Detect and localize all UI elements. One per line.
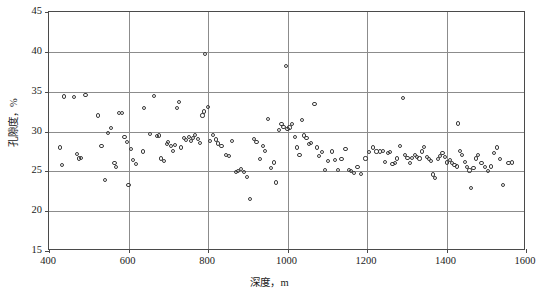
data-point (395, 156, 399, 160)
data-point (510, 160, 514, 164)
data-point (323, 168, 327, 172)
data-point (463, 160, 467, 164)
grid-line-horizontal (49, 52, 524, 53)
data-point (422, 145, 426, 149)
grid-line-vertical (447, 12, 448, 249)
data-point (355, 165, 359, 169)
data-point (173, 143, 177, 147)
data-point (300, 118, 304, 122)
x-axis-tick (129, 249, 130, 253)
x-axis-tick (288, 249, 289, 253)
data-point (177, 100, 181, 104)
data-point (72, 95, 76, 99)
data-point (248, 197, 252, 201)
data-point (157, 133, 161, 137)
data-point (109, 126, 113, 130)
data-point (266, 117, 270, 121)
data-point (326, 159, 330, 163)
grid-line-vertical (129, 12, 130, 249)
data-point (219, 144, 223, 148)
data-point (245, 175, 249, 179)
grid-line-horizontal (49, 92, 524, 93)
data-point (230, 139, 234, 143)
data-point (498, 157, 502, 161)
data-point (297, 153, 301, 157)
data-point (317, 154, 321, 158)
data-point (208, 139, 212, 143)
x-axis-tick-label: 600 (104, 255, 152, 267)
data-point (62, 94, 66, 98)
scatter-chart: 深度，m 孔隙度，% 40060080010001200140016001520… (0, 0, 539, 293)
data-point (388, 150, 392, 154)
y-axis-tick (45, 12, 49, 13)
data-point (458, 149, 462, 153)
data-point (381, 149, 385, 153)
data-point (126, 183, 130, 187)
data-point (106, 131, 110, 135)
data-point (474, 156, 478, 160)
data-point (122, 135, 126, 139)
data-point (60, 163, 64, 167)
data-point (469, 186, 473, 190)
y-axis-tick (45, 92, 49, 93)
data-point (125, 140, 129, 144)
data-point (420, 149, 424, 153)
data-point (492, 151, 496, 155)
data-point (242, 170, 246, 174)
data-point (175, 106, 179, 110)
data-point (293, 135, 297, 139)
data-point (363, 156, 367, 160)
data-point (254, 140, 258, 144)
data-point (471, 166, 475, 170)
x-axis-tick-label: 800 (183, 255, 231, 267)
data-point (202, 109, 206, 113)
data-point (476, 153, 480, 157)
data-point (141, 149, 145, 153)
data-point (455, 164, 459, 168)
x-axis-tick-label: 1200 (342, 255, 390, 267)
data-point (383, 160, 387, 164)
data-point (58, 145, 62, 149)
y-axis-tick-label: 25 (8, 164, 42, 176)
grid-line-vertical (208, 12, 209, 249)
data-point (274, 180, 278, 184)
data-point (290, 122, 294, 126)
data-point (312, 102, 316, 106)
data-point (269, 166, 273, 170)
y-axis-tick-label: 15 (8, 244, 42, 256)
data-point (287, 125, 291, 129)
data-point (103, 178, 107, 182)
data-point (171, 149, 175, 153)
data-point (330, 149, 334, 153)
data-point (203, 52, 207, 56)
data-point (227, 154, 231, 158)
x-axis-tick-label: 1400 (422, 255, 470, 267)
data-point (211, 133, 215, 137)
y-axis-tick-label: 40 (8, 45, 42, 57)
data-point (489, 164, 493, 168)
x-axis-tick (208, 249, 209, 253)
data-point (120, 111, 124, 115)
x-axis-tick (49, 249, 50, 253)
x-axis-tick-label: 1600 (501, 255, 539, 267)
y-axis-tick (45, 52, 49, 53)
x-axis-tick (367, 249, 368, 253)
x-axis-tick (447, 249, 448, 253)
y-axis-tick-label: 35 (8, 85, 42, 97)
data-point (198, 141, 202, 145)
data-point (261, 144, 265, 148)
data-point (315, 145, 319, 149)
x-axis-tick-label: 1000 (263, 255, 311, 267)
data-point (83, 93, 87, 97)
data-point (75, 152, 79, 156)
data-point (495, 145, 499, 149)
data-point (79, 156, 83, 160)
data-point (206, 105, 210, 109)
data-point (393, 161, 397, 165)
data-point (398, 144, 402, 148)
y-axis-tick-label: 45 (8, 5, 42, 17)
data-point (179, 145, 183, 149)
x-axis-tick (526, 249, 527, 253)
data-point (304, 136, 308, 140)
data-point (501, 183, 505, 187)
